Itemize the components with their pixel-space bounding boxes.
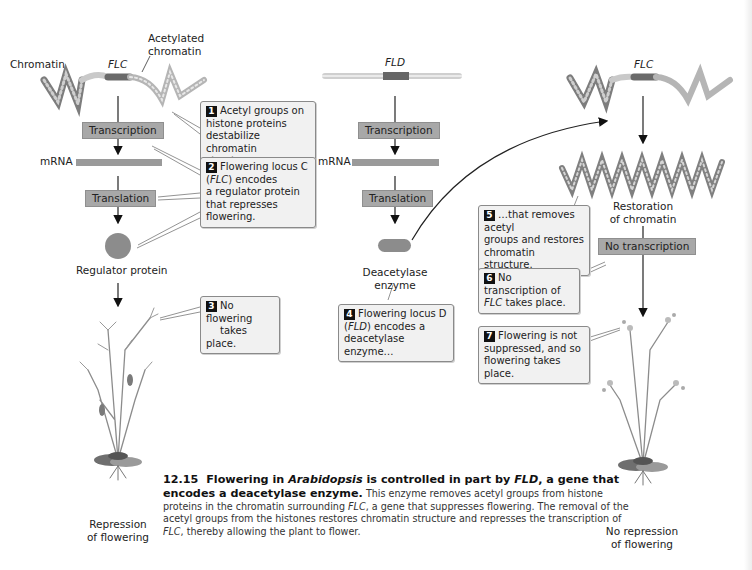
step-6-callout: 6No transcription of FLC takes place. — [478, 268, 580, 314]
left-chromatin — [44, 72, 204, 104]
acetylated-label-line1: Acetylated — [148, 32, 204, 45]
step-7-callout: 7Flowering is not suppressed, and so flo… — [478, 326, 590, 384]
step-1-number: 1 — [206, 106, 217, 117]
right-flc-label: FLC — [634, 58, 653, 71]
fld-gene-segment — [383, 72, 409, 80]
deacetylase-label-line1: Deacetylase — [355, 266, 435, 279]
acetylated-label-line2: chromatin — [148, 45, 201, 58]
regulator-protein-shape — [105, 233, 131, 259]
step-4-callout: 4Flowering locus D (FLD) encodes a deace… — [338, 304, 454, 362]
plant-repressed — [80, 308, 158, 480]
middle-chromatin — [322, 72, 462, 80]
repression-label-line1: Repression — [78, 518, 158, 531]
no-transcription-box: No transcription — [598, 238, 696, 255]
left-mrna-label: mRNA — [40, 155, 73, 168]
no-repression-label-line2: of flowering — [592, 538, 692, 551]
middle-mrna-bar — [352, 159, 439, 166]
fld-label: FLD — [385, 56, 405, 69]
restoration-label-line1: Restoration — [603, 200, 683, 213]
page-edge-shadow — [744, 0, 752, 570]
step-2-number: 2 — [206, 162, 217, 173]
restoration-label-line2: of chromatin — [603, 213, 683, 226]
restored-chromatin — [562, 160, 722, 190]
deacetylase-label-line2: enzyme — [355, 279, 435, 292]
step-7-number: 7 — [484, 331, 495, 342]
regulator-protein-label: Regulator protein — [76, 264, 167, 277]
repression-label-line2: of flowering — [78, 531, 158, 544]
step-4-number: 4 — [344, 309, 355, 320]
right-chromatin-top — [570, 72, 730, 102]
chromatin-label: Chromatin — [10, 58, 65, 71]
middle-transcription-box: Transcription — [358, 122, 440, 139]
left-transcription-box: Transcription — [82, 122, 164, 139]
step-5-callout: 5…that removes acetyl groups and restore… — [478, 205, 590, 276]
left-translation-box: Translation — [85, 190, 156, 207]
figure-caption: 12.15 Flowering in Arabidopsis is contro… — [163, 473, 643, 538]
step-6-number: 6 — [484, 273, 495, 284]
deacetylase-enzyme-shape — [378, 239, 411, 252]
left-flc-label: FLC — [108, 58, 127, 71]
left-mrna-bar — [76, 159, 162, 166]
middle-translation-box: Translation — [362, 190, 433, 207]
middle-mrna-label: mRNA — [318, 155, 351, 168]
step-3-number: 3 — [206, 301, 217, 312]
plant-flowering — [602, 313, 685, 485]
step-3-callout: 3No flowering takes place. — [200, 296, 280, 354]
step-5-number: 5 — [484, 210, 495, 221]
step-2-callout: 2Flowering locus C (FLC) encodes a regul… — [200, 157, 316, 228]
